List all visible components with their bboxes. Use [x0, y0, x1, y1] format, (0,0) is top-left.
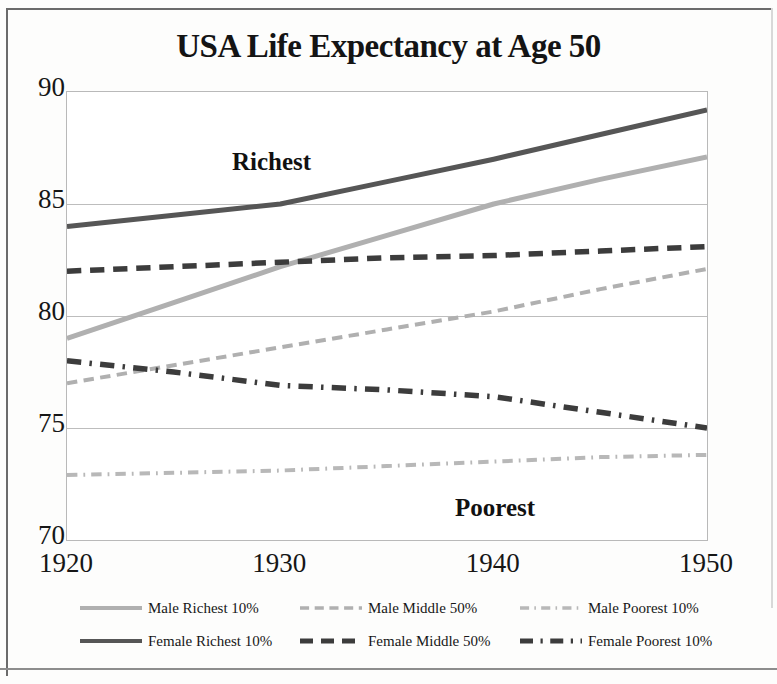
legend-swatch — [520, 601, 582, 615]
x-axis-tick-label: 1930 — [219, 548, 339, 579]
legend-swatch — [520, 634, 582, 648]
plot-area — [66, 91, 708, 541]
legend-label: Female Richest 10% — [148, 633, 272, 650]
legend-swatch — [80, 601, 142, 615]
legend-entry[interactable]: Male Poorest 10% — [520, 594, 699, 622]
series-line — [67, 269, 707, 383]
y-axis-tick-label: 80 — [5, 296, 65, 327]
annotation-poorest: Poorest — [455, 494, 535, 522]
legend-entry[interactable]: Female Middle 50% — [300, 627, 490, 655]
chart-legend: Male Richest 10%Male Middle 50%Male Poor… — [60, 594, 760, 656]
legend-entry[interactable]: Male Richest 10% — [80, 594, 259, 622]
x-axis-tick-label: 1940 — [433, 548, 553, 579]
series-line — [67, 110, 707, 226]
y-axis-tick-label: 75 — [5, 408, 65, 439]
annotation-richest: Richest — [232, 148, 311, 176]
legend-label: Female Poorest 10% — [588, 633, 712, 650]
legend-swatch — [300, 601, 362, 615]
series-layer — [67, 92, 707, 540]
series-line — [67, 455, 707, 475]
y-axis-tick-label: 85 — [5, 184, 65, 215]
plot-wrapper: 7075808590 1920193019401950 Richest Poor… — [0, 0, 777, 684]
series-line — [67, 157, 707, 338]
x-axis-tick-label: 1950 — [646, 548, 766, 579]
chart-page: USA Life Expectancy at Age 50 7075808590… — [0, 0, 777, 684]
legend-row-female: Female Richest 10%Female Middle 50%Femal… — [60, 627, 760, 655]
legend-entry[interactable]: Female Poorest 10% — [520, 627, 712, 655]
legend-label: Male Richest 10% — [148, 600, 259, 617]
legend-label: Male Middle 50% — [368, 600, 477, 617]
legend-swatch — [300, 634, 362, 648]
series-line — [67, 247, 707, 272]
series-line — [67, 361, 707, 428]
legend-label: Female Middle 50% — [368, 633, 490, 650]
y-axis-tick-label: 90 — [5, 72, 65, 103]
legend-row-male: Male Richest 10%Male Middle 50%Male Poor… — [60, 594, 760, 622]
legend-entry[interactable]: Male Middle 50% — [300, 594, 477, 622]
legend-entry[interactable]: Female Richest 10% — [80, 627, 272, 655]
y-axis-tick-label: 70 — [5, 520, 65, 551]
legend-label: Male Poorest 10% — [588, 600, 699, 617]
x-axis-tick-label: 1920 — [6, 548, 126, 579]
legend-swatch — [80, 634, 142, 648]
